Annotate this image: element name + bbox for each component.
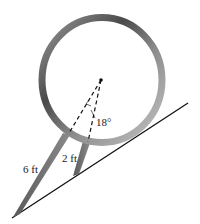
short-leg-label: 2 ft bbox=[62, 153, 77, 164]
right-angle-marker bbox=[86, 100, 91, 106]
angle-label: 18° bbox=[96, 117, 111, 128]
diagram-canvas bbox=[0, 0, 200, 224]
dashed-radius-short bbox=[88, 80, 101, 142]
center-point bbox=[99, 78, 103, 82]
long-leg-label: 6 ft bbox=[23, 164, 38, 175]
long-leg bbox=[13, 133, 70, 217]
